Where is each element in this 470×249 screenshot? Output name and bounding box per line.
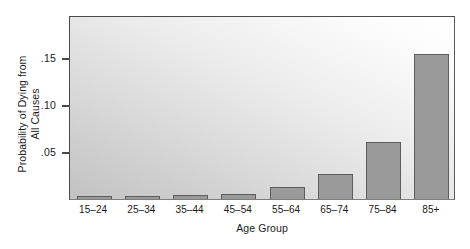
bar	[221, 194, 256, 199]
bar	[77, 196, 112, 199]
bar	[366, 142, 401, 199]
bar-chart-figure: Probability of Dying from All Causes .05…	[0, 0, 470, 249]
x-tick-label: 85+	[401, 204, 461, 215]
y-tick-label: .15	[14, 52, 56, 64]
y-axis-title: Probability of Dying from All Causes	[16, 19, 48, 209]
y-tick-label: .05	[14, 146, 56, 158]
bar	[270, 187, 305, 199]
bar	[125, 196, 160, 199]
y-tick-label: .10	[14, 99, 56, 111]
bar	[414, 54, 449, 199]
plot-area	[69, 16, 455, 200]
x-axis-title: Age Group	[69, 222, 455, 234]
bar	[318, 174, 353, 199]
bar	[173, 195, 208, 199]
